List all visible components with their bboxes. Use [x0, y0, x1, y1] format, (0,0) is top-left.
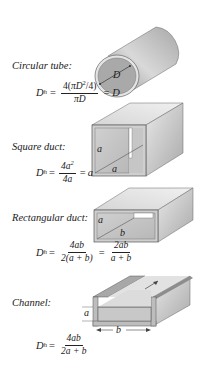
- dimension-label-a-vertical: a: [97, 143, 102, 154]
- formula-rectangular-duct: Dh = 4ab 2(a + b) = 2ab a + b: [36, 241, 135, 264]
- fraction: 4a2 4a: [59, 160, 76, 185]
- label-square-duct: Square duct:: [12, 141, 66, 152]
- dimension-label-b: b: [120, 227, 125, 238]
- dimension-label-a: a: [84, 307, 89, 318]
- label-channel: Channel:: [12, 297, 51, 308]
- circular-tube-graphic: [0, 0, 197, 373]
- fraction: 4(πD2/4) πD: [61, 80, 98, 105]
- dimension-label-a: a: [98, 214, 103, 225]
- formula-square-duct: Dh = 4a2 4a = a: [36, 160, 93, 185]
- rectangular-duct: [94, 188, 193, 242]
- fraction: 2ab a + b: [109, 241, 134, 264]
- square-duct: [92, 103, 183, 176]
- dimension-label-a-horizontal: a: [112, 163, 117, 174]
- dimension-label-D: D: [113, 69, 120, 80]
- fraction: 4ab 2a + b: [59, 334, 88, 357]
- label-circular-tube: Circular tube:: [12, 60, 72, 71]
- channel: [82, 276, 193, 332]
- fraction: 4ab 2(a + b): [59, 241, 95, 264]
- formula-channel: Dh = 4ab 2a + b: [36, 334, 90, 357]
- label-rectangular-duct: Rectangular duct:: [12, 212, 88, 223]
- formula-circular-tube: Dh = 4(πD2/4) πD = D: [36, 80, 120, 105]
- dimension-label-b: b: [116, 324, 121, 335]
